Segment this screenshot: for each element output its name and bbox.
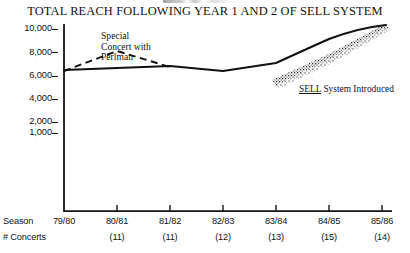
x-axis-concert-count: (11) xyxy=(147,232,193,242)
annotation-sell-system: SELL System Introduced xyxy=(299,84,394,95)
chart-container: TOTAL REACH FOLLOWING YEAR 1 AND 2 OF SE… xyxy=(0,0,410,253)
annotation-sell-rest: System Introduced xyxy=(321,84,394,94)
x-axis-season-label: 81/82 xyxy=(147,216,193,226)
x-axis-season-label: 79/80 xyxy=(41,216,87,226)
annotation-perlman-line1: Special xyxy=(101,31,151,42)
annotation-sell-underlined: SELL xyxy=(299,84,321,94)
x-axis-season-label: 82/83 xyxy=(200,216,246,226)
x-axis-concert-count: (13) xyxy=(253,232,299,242)
growth-band-shading xyxy=(272,24,389,86)
row-label-season: Season xyxy=(3,216,33,226)
x-axis-concert-count: (12) xyxy=(200,232,246,242)
growth-band-shading-secondary xyxy=(276,27,388,89)
annotation-perlman: Special Concert with Perlman xyxy=(101,31,151,63)
x-axis-tick-marks xyxy=(117,205,382,211)
row-label-concerts: # Concerts xyxy=(3,232,46,242)
x-axis-season-label: 84/85 xyxy=(306,216,352,226)
x-axis-season-label: 80/81 xyxy=(94,216,140,226)
x-axis-concert-count: (15) xyxy=(306,232,352,242)
x-axis-season-label: 83/84 xyxy=(253,216,299,226)
annotation-perlman-line3: Perlman xyxy=(101,52,151,63)
x-axis-season-label: 85/86 xyxy=(359,216,405,226)
x-axis-concert-count: (14) xyxy=(359,232,405,242)
x-axis-concert-count: (11) xyxy=(94,232,140,242)
